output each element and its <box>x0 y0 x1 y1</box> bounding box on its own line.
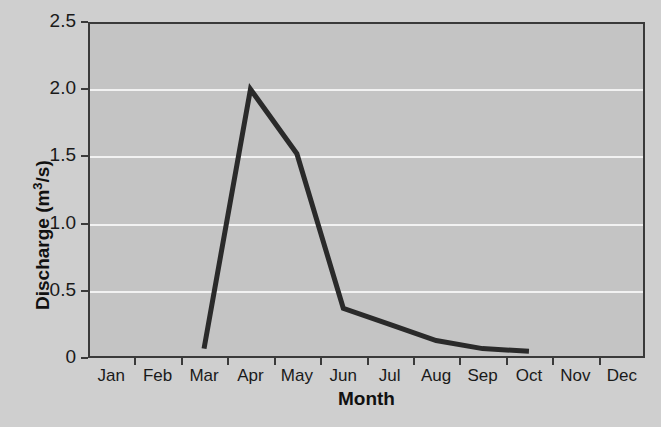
x-axis-tick-label: Aug <box>413 366 459 386</box>
discharge-line <box>204 89 529 351</box>
y-axis-title-superscript: 3 <box>30 182 45 189</box>
y-axis-tick-mark <box>81 155 88 157</box>
x-axis-tick-label: Mar <box>181 366 227 386</box>
x-axis-tick-mark <box>274 358 276 365</box>
y-axis-tick-mark <box>81 21 88 23</box>
x-axis-tick-mark <box>552 358 554 365</box>
x-axis-tick-label: Sep <box>459 366 505 386</box>
y-axis-title: Discharge (m3/s) <box>30 160 54 310</box>
y-axis-tick-label: 0 <box>16 346 76 368</box>
discharge-line-chart: 00.51.01.52.02.5 JanFebMarAprMayJunJulAu… <box>0 0 661 427</box>
x-axis-tick-mark <box>227 358 229 365</box>
x-axis-title: Month <box>88 388 645 410</box>
x-axis-tick-mark <box>181 358 183 365</box>
x-axis-tick-label: Dec <box>599 366 645 386</box>
x-axis-tick-mark <box>459 358 461 365</box>
y-axis-tick-label: 2.0 <box>16 77 76 99</box>
x-axis-tick-mark <box>599 358 601 365</box>
y-axis-tick-mark <box>81 290 88 292</box>
x-axis-tick-label: Jul <box>367 366 413 386</box>
x-axis-tick-mark <box>367 358 369 365</box>
x-axis-tick-label: May <box>274 366 320 386</box>
y-axis-tick-label: 2.5 <box>16 10 76 32</box>
x-axis-tick-mark <box>506 358 508 365</box>
x-axis-tick-mark <box>134 358 136 365</box>
y-axis-tick-mark <box>81 88 88 90</box>
data-series-layer <box>88 22 645 358</box>
x-axis-tick-mark <box>320 358 322 365</box>
y-axis-tick-mark <box>81 223 88 225</box>
x-axis-tick-label: Oct <box>506 366 552 386</box>
x-axis-tick-label: Jun <box>320 366 366 386</box>
x-axis-tick-label: Nov <box>552 366 598 386</box>
y-axis-tick-mark <box>81 357 88 359</box>
x-axis-tick-label: Apr <box>227 366 273 386</box>
x-axis-tick-label: Feb <box>134 366 180 386</box>
x-axis-tick-mark <box>413 358 415 365</box>
x-axis-tick-label: Jan <box>88 366 134 386</box>
